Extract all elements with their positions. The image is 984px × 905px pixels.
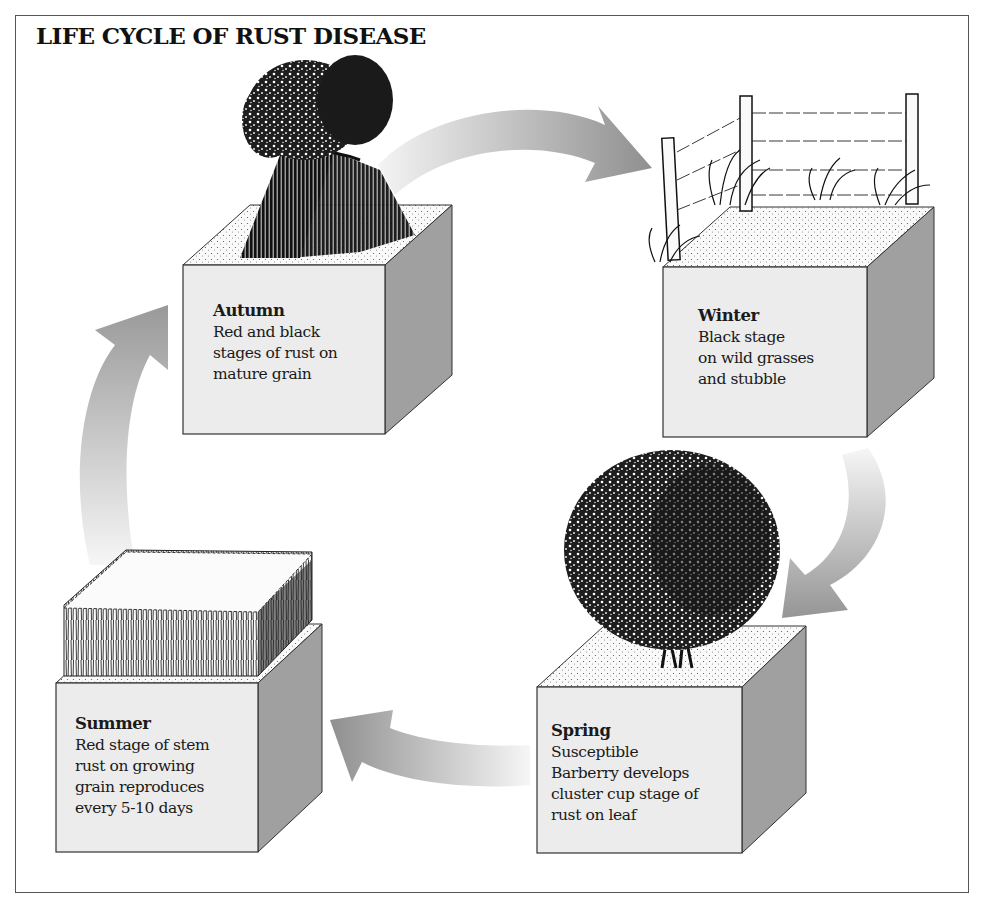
stage-description-line: Red and black (213, 322, 337, 343)
stage-description-line: grain reproduces (75, 777, 209, 798)
grain-field-illustration (64, 550, 312, 676)
season-title: Winter (698, 305, 814, 326)
stage-description-line: rust on leaf (551, 805, 698, 826)
stage-description-line: every 5-10 days (75, 798, 209, 819)
stage-description-line: Black stage (698, 327, 814, 348)
stage-label-summer: Summer Red stage of stem rust on growing… (75, 713, 209, 819)
stage-description-line: and stubble (698, 369, 814, 390)
stage-label-winter: Winter Black stage on wild grasses and s… (698, 305, 814, 390)
stage-label-autumn: Autumn Red and black stages of rust on m… (213, 300, 337, 385)
season-title: Spring (551, 720, 698, 741)
stage-description-line: mature grain (213, 364, 337, 385)
stage-description-line: on wild grasses (698, 348, 814, 369)
stage-description-line: Red stage of stem (75, 735, 209, 756)
arrow-autumn-to-winter (378, 106, 652, 195)
stage-description-line: rust on growing (75, 756, 209, 777)
season-title: Summer (75, 713, 209, 734)
stage-description-line: stages of rust on (213, 343, 337, 364)
stage-label-spring: Spring Susceptible Barberry develops clu… (551, 720, 698, 826)
arrow-spring-to-summer (330, 710, 530, 786)
stage-description-line: Barberry develops (551, 763, 698, 784)
stage-description-line: cluster cup stage of (551, 784, 698, 805)
arrow-winter-to-spring (782, 448, 886, 618)
stage-description-line: Susceptible (551, 742, 698, 763)
season-title: Autumn (213, 300, 337, 321)
arrow-summer-to-autumn (80, 305, 168, 565)
